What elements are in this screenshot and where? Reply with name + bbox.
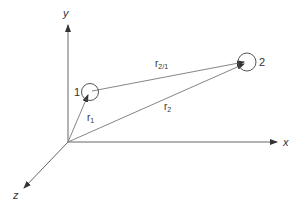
- point-2-label: 2: [259, 56, 265, 68]
- z-axis-label: z: [12, 189, 19, 201]
- vector-r2: [68, 64, 244, 142]
- vector-r21-label: r2/1: [155, 58, 168, 70]
- vector-r2-label: r2: [164, 101, 171, 113]
- z-axis: [24, 142, 68, 188]
- particle-1-circle: [82, 84, 99, 101]
- vector-r1-label: r1: [87, 112, 94, 124]
- x-axis-label: x: [282, 136, 289, 148]
- point-1-label: 1: [74, 86, 80, 98]
- particle-2-circle: [238, 53, 256, 71]
- y-axis-label: y: [62, 7, 70, 19]
- position-vector-diagram: y x z 1 2 r1 r2 r2/1: [0, 0, 302, 212]
